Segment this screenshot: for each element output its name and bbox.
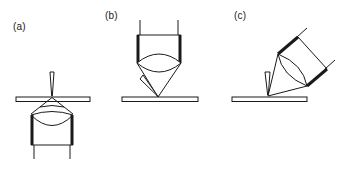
sample-slide <box>122 97 198 102</box>
microscope-configurations-diagram <box>0 0 349 172</box>
objective-lens <box>278 54 307 86</box>
objective-lens <box>31 112 73 126</box>
tip-icon <box>140 75 158 97</box>
panel-c <box>232 28 335 102</box>
panel-a <box>16 72 90 159</box>
objective-lens <box>137 54 181 72</box>
tip-icon <box>50 72 54 96</box>
panel-b <box>122 20 198 102</box>
sample-slide <box>232 97 307 102</box>
